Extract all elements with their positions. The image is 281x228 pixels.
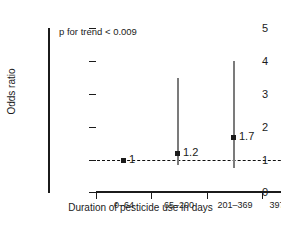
y-tick-label-5: 5 bbox=[254, 23, 268, 34]
x-tick-3 bbox=[262, 193, 263, 199]
data-point-1 bbox=[175, 151, 180, 156]
data-label-2: 1.7 bbox=[239, 131, 254, 142]
y-tick-label-0: 0 bbox=[254, 187, 268, 198]
y-tick-label-3: 3 bbox=[254, 89, 268, 100]
data-point-2 bbox=[231, 135, 236, 140]
plot-area: 5 4 3 2 1 0 0–64 65–200 201–369 397–7000… bbox=[48, 14, 268, 178]
y-tick-2 bbox=[89, 127, 96, 128]
x-tick-2 bbox=[207, 193, 208, 199]
y-tick-4 bbox=[89, 61, 96, 62]
x-tick-1 bbox=[151, 193, 152, 199]
y-tick-1 bbox=[89, 160, 96, 161]
p-for-trend-annotation: p for trend < 0.009 bbox=[59, 26, 137, 37]
data-point-0 bbox=[121, 158, 126, 163]
y-axis-title: Odds ratio bbox=[6, 37, 17, 147]
y-tick-label-2: 2 bbox=[254, 122, 268, 133]
error-bar-2 bbox=[233, 61, 235, 168]
y-axis-line bbox=[48, 28, 50, 193]
data-label-1: 1.2 bbox=[183, 147, 198, 158]
x-axis-title: Duration of pesticide use in days bbox=[0, 202, 281, 213]
x-tick-0 bbox=[96, 193, 97, 199]
y-tick-label-4: 4 bbox=[254, 56, 268, 67]
y-tick-3 bbox=[89, 94, 96, 95]
y-tick-0 bbox=[89, 192, 96, 193]
odds-ratio-chart: 5 4 3 2 1 0 0–64 65–200 201–369 397–7000… bbox=[0, 0, 281, 228]
data-label-0: 1 bbox=[129, 154, 135, 165]
